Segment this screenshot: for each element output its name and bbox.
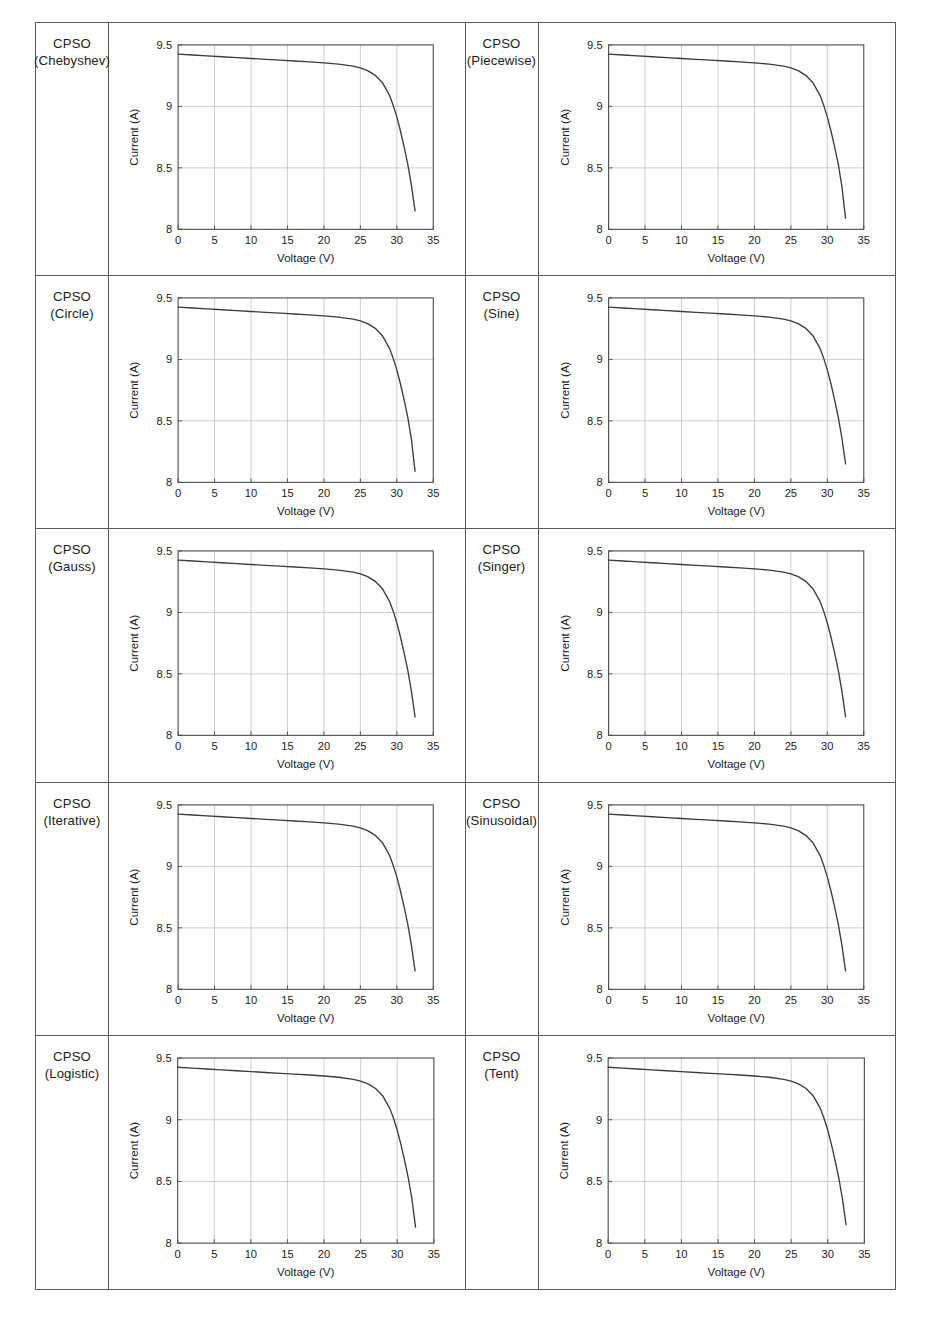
x-tick-label: 10 bbox=[675, 1248, 687, 1260]
x-tick-label: 15 bbox=[281, 1248, 293, 1260]
x-tick-label: 20 bbox=[748, 1248, 760, 1260]
iv-curve-chart: 0510152025303588.599.5Voltage (V)Current… bbox=[109, 23, 465, 275]
y-tick-label: 9.5 bbox=[587, 798, 603, 810]
panel-cell: CPSO(Iterative)0510152025303588.599.5Vol… bbox=[36, 783, 466, 1035]
x-tick-label: 10 bbox=[675, 234, 687, 246]
y-tick-label: 8.5 bbox=[156, 1175, 172, 1187]
tick-marks bbox=[608, 804, 863, 988]
panel-label-algorithm: CPSO bbox=[53, 541, 91, 558]
panel-label-algorithm: CPSO bbox=[483, 1048, 521, 1065]
x-tick-label: 20 bbox=[318, 487, 330, 499]
x-tick-label: 0 bbox=[605, 1248, 611, 1260]
iv-curve-line bbox=[608, 54, 845, 218]
y-tick-label: 8 bbox=[166, 983, 172, 995]
panel-chart-cell: 0510152025303588.599.5Voltage (V)Current… bbox=[539, 23, 896, 275]
x-tick-label: 30 bbox=[821, 234, 833, 246]
panel-chart-cell: 0510152025303588.599.5Voltage (V)Current… bbox=[109, 23, 465, 275]
x-tick-label: 0 bbox=[605, 994, 611, 1006]
x-tick-label: 0 bbox=[175, 487, 181, 499]
y-tick-label: 9.5 bbox=[157, 39, 173, 51]
x-tick-label: 0 bbox=[605, 741, 611, 753]
panel-label-cell: CPSO(Gauss) bbox=[36, 529, 109, 781]
panel-label-map: (Singer) bbox=[478, 558, 526, 575]
x-tick-label: 15 bbox=[711, 234, 723, 246]
x-tick-label: 5 bbox=[641, 234, 647, 246]
x-tick-label: 25 bbox=[354, 994, 366, 1006]
panel-label-algorithm: CPSO bbox=[483, 288, 521, 305]
x-tick-label: 30 bbox=[391, 741, 403, 753]
y-axis-title: Current (A) bbox=[127, 1122, 140, 1179]
y-tick-label: 9 bbox=[596, 100, 602, 112]
x-axis-title: Voltage (V) bbox=[277, 252, 334, 264]
panel-label-map: (Iterative) bbox=[44, 812, 101, 829]
x-tick-label: 20 bbox=[748, 234, 760, 246]
y-tick-label: 9 bbox=[166, 860, 172, 872]
panel-cell: CPSO(Singer)0510152025303588.599.5Voltag… bbox=[466, 529, 896, 781]
x-tick-label: 15 bbox=[281, 234, 293, 246]
plot-frame bbox=[178, 804, 433, 988]
x-tick-label: 15 bbox=[281, 487, 293, 499]
tick-marks bbox=[178, 298, 433, 482]
x-tick-label: 25 bbox=[354, 487, 366, 499]
panel-chart-cell: 0510152025303588.599.5Voltage (V)Current… bbox=[109, 276, 465, 528]
x-tick-label: 30 bbox=[821, 994, 833, 1006]
x-tick-label: 25 bbox=[784, 487, 796, 499]
panel-label-cell: CPSO(Tent) bbox=[466, 1036, 539, 1289]
x-tick-label: 25 bbox=[784, 1248, 796, 1260]
gridlines bbox=[608, 804, 863, 988]
tick-marks bbox=[178, 804, 433, 988]
plot-frame bbox=[608, 551, 863, 735]
x-tick-label: 25 bbox=[784, 234, 796, 246]
panel-label-cell: CPSO(Logistic) bbox=[36, 1036, 109, 1289]
iv-curve-chart: 0510152025303588.599.5Voltage (V)Current… bbox=[539, 276, 896, 528]
x-tick-label: 35 bbox=[857, 741, 869, 753]
iv-curve-chart: 0510152025303588.599.5Voltage (V)Current… bbox=[109, 783, 465, 1035]
panel-label-cell: CPSO(Chebyshev) bbox=[36, 23, 109, 275]
gridlines bbox=[178, 551, 433, 735]
x-tick-label: 0 bbox=[605, 487, 611, 499]
plot-frame bbox=[178, 45, 433, 229]
panel-cell: CPSO(Sine)0510152025303588.599.5Voltage … bbox=[466, 276, 896, 528]
iv-curve-line bbox=[178, 1067, 416, 1227]
y-axis-title: Current (A) bbox=[128, 108, 140, 165]
chart-grid-table: CPSO(Chebyshev)0510152025303588.599.5Vol… bbox=[35, 22, 896, 1290]
iv-curve-line bbox=[178, 814, 415, 971]
panel-chart-cell: 0510152025303588.599.5Voltage (V)Current… bbox=[539, 529, 896, 781]
y-axis-title: Current (A) bbox=[558, 362, 570, 419]
panel-label-map: (Sinusoidal) bbox=[466, 812, 537, 829]
iv-curve-chart: 0510152025303588.599.5Voltage (V)Current… bbox=[539, 783, 896, 1035]
y-tick-label: 9.5 bbox=[587, 39, 603, 51]
x-tick-label: 5 bbox=[641, 994, 647, 1006]
y-tick-label: 8.5 bbox=[587, 415, 603, 427]
iv-curve-line bbox=[178, 54, 415, 211]
y-tick-label: 9.5 bbox=[157, 292, 173, 304]
plot-frame bbox=[178, 1058, 434, 1243]
x-tick-label: 15 bbox=[281, 741, 293, 753]
y-tick-label: 9.5 bbox=[157, 545, 173, 557]
plot-frame bbox=[608, 298, 863, 482]
panel-label-map: (Logistic) bbox=[45, 1065, 100, 1082]
gridlines bbox=[178, 1058, 434, 1243]
gridlines bbox=[178, 804, 433, 988]
x-tick-label: 25 bbox=[784, 994, 796, 1006]
x-tick-label: 10 bbox=[245, 1248, 257, 1260]
x-tick-label: 20 bbox=[748, 487, 760, 499]
y-tick-label: 8 bbox=[166, 223, 172, 235]
y-axis-title: Current (A) bbox=[558, 615, 570, 672]
x-tick-label: 10 bbox=[245, 994, 257, 1006]
tick-marks bbox=[178, 551, 433, 735]
y-tick-label: 8.5 bbox=[587, 162, 603, 174]
x-axis-title: Voltage (V) bbox=[277, 505, 334, 517]
y-tick-label: 8.5 bbox=[157, 921, 173, 933]
iv-curve-line bbox=[178, 561, 415, 718]
y-axis-title: Current (A) bbox=[557, 1122, 570, 1179]
x-tick-label: 35 bbox=[427, 741, 439, 753]
y-tick-label: 8 bbox=[596, 477, 602, 489]
x-tick-label: 10 bbox=[675, 741, 687, 753]
tick-marks bbox=[608, 298, 863, 482]
x-tick-label: 5 bbox=[641, 741, 647, 753]
x-tick-label: 30 bbox=[391, 1248, 403, 1260]
panel-chart-cell: 0510152025303588.599.5Voltage (V)Current… bbox=[539, 783, 896, 1035]
x-tick-label: 10 bbox=[245, 234, 257, 246]
gridlines bbox=[608, 551, 863, 735]
